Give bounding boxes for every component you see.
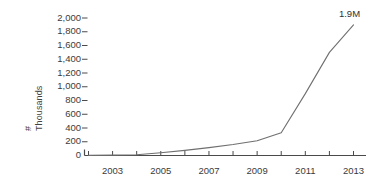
series-line	[89, 25, 354, 155]
y-axis	[82, 18, 88, 156]
data-series	[89, 25, 354, 155]
line-chart: # Thousands 02004006008001,0001,2001,400…	[0, 0, 379, 191]
plot-area	[0, 0, 379, 191]
